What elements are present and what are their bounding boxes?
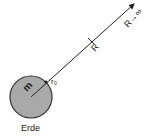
infinity-label: R→∞	[122, 6, 144, 29]
r0-label: r₀	[51, 77, 57, 86]
gravitation-diagram: m r₀ R R→∞ Erde	[0, 0, 152, 138]
diagram-canvas: m r₀ R R→∞ Erde	[0, 0, 152, 138]
distance-label: R	[89, 41, 101, 53]
surface-point	[44, 80, 47, 83]
earth-label: Erde	[21, 123, 40, 133]
